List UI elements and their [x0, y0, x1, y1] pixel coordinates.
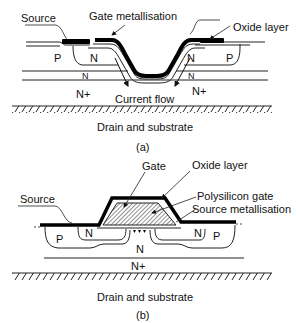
label-polysilicon-gate: Polysilicon gate	[197, 190, 273, 202]
region-n-center-b: N	[136, 243, 144, 255]
region-p-right-b: P	[213, 230, 220, 242]
region-n-left-a: N	[90, 52, 98, 64]
label-drain-substrate-b: Drain and substrate	[97, 291, 193, 303]
label-current-flow: Current flow	[115, 93, 174, 105]
diagram-b-dmos: Gate Oxide layer Source Polysilicon gate…	[12, 159, 291, 321]
region-n-mid-right-a: N	[188, 71, 195, 81]
label-gate-b: Gate	[142, 160, 166, 172]
region-n-mid-left-a: N	[82, 71, 89, 81]
label-source-a: Source	[21, 12, 56, 24]
label-source-b: Source	[20, 193, 55, 205]
region-p-right-a: P	[226, 52, 233, 64]
caption-a: (a)	[136, 141, 149, 153]
region-n-left-b: N	[85, 227, 93, 239]
label-drain-substrate-a: Drain and substrate	[97, 121, 193, 133]
label-gate-metallisation: Gate metallisation	[89, 10, 177, 22]
mosfet-cross-section-diagrams: Source Gate metallisation Oxide layer P …	[0, 0, 297, 323]
label-source-metallisation: Source metallisation	[192, 203, 291, 215]
region-n-right-b: N	[194, 227, 202, 239]
region-nplus-right-a: N+	[192, 85, 206, 97]
region-p-left-b: P	[56, 233, 63, 245]
source-metal-right	[200, 38, 224, 43]
caption-b: (b)	[136, 309, 149, 321]
source-metal-left	[62, 39, 90, 44]
region-nplus-b: N+	[131, 260, 145, 272]
label-oxide-layer-a: Oxide layer	[233, 21, 289, 33]
region-n-right-a: N	[187, 52, 195, 64]
label-oxide-layer-b: Oxide layer	[192, 159, 248, 171]
region-p-left-a: P	[54, 52, 61, 64]
polysilicon-gate	[103, 203, 176, 225]
diagram-a-vmos: Source Gate metallisation Oxide layer P …	[12, 10, 289, 153]
region-nplus-left-a: N+	[76, 88, 90, 100]
